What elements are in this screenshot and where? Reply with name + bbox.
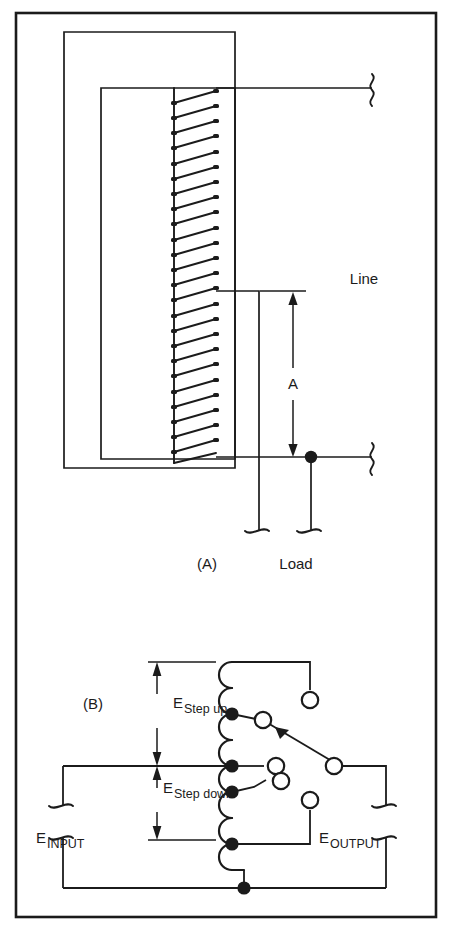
input-label: E INPUT	[36, 829, 85, 851]
stepup-dimension-arrow	[153, 662, 162, 766]
terminal-selector-upper	[255, 712, 271, 728]
break-symbol-load-left	[245, 529, 269, 532]
terminal-selector-output	[326, 758, 342, 774]
terminal-bottom	[302, 792, 318, 808]
break-symbol-input-top	[49, 804, 73, 807]
panel-b: (B) E Step up E Step down E INPUT E OUTP…	[36, 662, 396, 895]
output-label-subscript: OUTPUT	[330, 837, 382, 851]
coil-bottom-lead	[63, 870, 244, 888]
stepup-label-subscript: Step up	[184, 702, 227, 716]
coil-turn-barbs-a	[171, 89, 219, 454]
tap-dot-1	[225, 707, 238, 720]
line-label: Line	[350, 270, 378, 287]
coil-top-lead	[244, 662, 310, 690]
coil-winding-a	[174, 88, 216, 463]
stepdown-dimension-arrow	[153, 766, 162, 840]
junction-dot-a	[305, 451, 317, 463]
tap4-link	[232, 810, 310, 844]
output-label-symbol: E	[319, 829, 329, 846]
terminal-step-down	[273, 773, 289, 789]
core-outer-rect	[64, 32, 235, 468]
stepdown-label-symbol: E	[163, 779, 173, 796]
return-junction-dot	[237, 881, 250, 894]
schematic-diagram: A Line (A) Load	[0, 0, 452, 930]
stepup-label-symbol: E	[173, 694, 183, 711]
break-symbol-output-top	[372, 804, 396, 807]
output-hot-line	[341, 766, 386, 806]
input-label-symbol: E	[36, 829, 46, 846]
tap-dot-4	[225, 837, 238, 850]
stepdown-label: E Step down	[163, 779, 233, 801]
panel-b-id-label: (B)	[83, 695, 103, 712]
panel-a-id-label: (A)	[197, 555, 217, 572]
terminals-b	[255, 692, 342, 808]
dimension-label-a: A	[288, 375, 298, 392]
break-symbol-line-top	[370, 74, 373, 106]
panel-a: A Line (A) Load	[64, 32, 378, 572]
stepdown-label-subscript: Step down	[174, 787, 233, 801]
load-lead-tap	[216, 291, 259, 531]
terminal-step-up-top	[302, 692, 318, 708]
break-symbol-load-right	[297, 529, 321, 532]
output-label: E OUTPUT	[319, 829, 382, 851]
tap-dots-b	[225, 707, 250, 894]
selector-arrowhead-icon	[275, 727, 289, 739]
input-label-subscript: INPUT	[47, 837, 85, 851]
load-label: Load	[279, 555, 312, 572]
tap-dot-2	[225, 759, 238, 772]
break-symbol-line-bottom	[370, 443, 373, 475]
figure-container: A Line (A) Load	[0, 0, 452, 930]
